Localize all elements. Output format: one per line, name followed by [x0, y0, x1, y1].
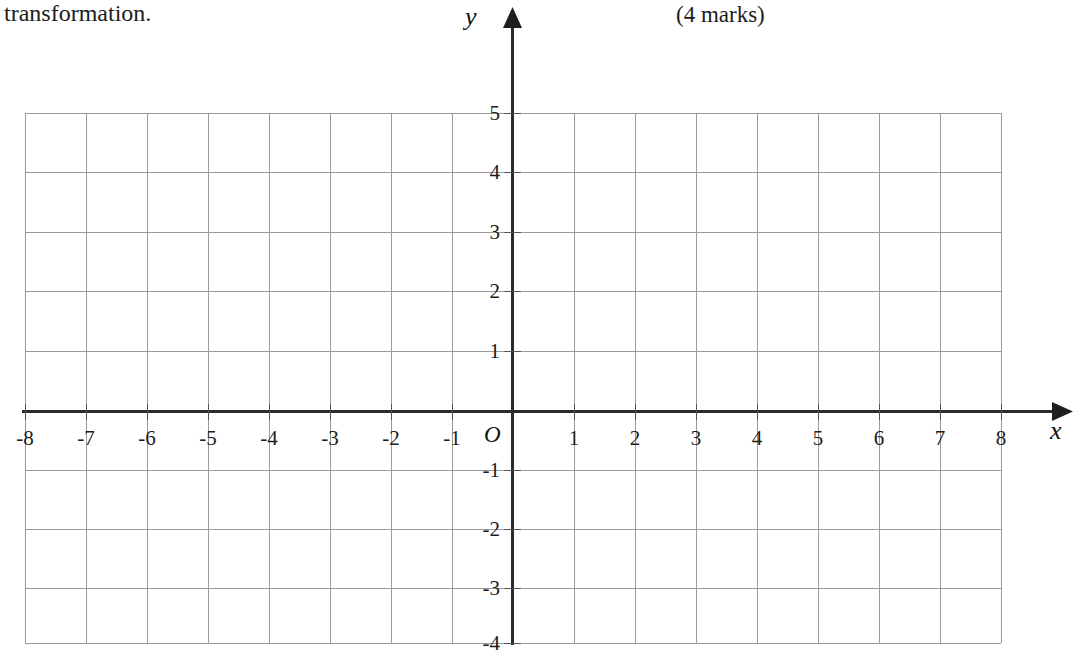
y-tick-label: -1: [460, 460, 500, 481]
x-axis: [22, 402, 1073, 421]
x-tick-label: -2: [371, 428, 411, 449]
y-tick-label: 2: [460, 281, 500, 302]
y-tick-label: -4: [460, 633, 500, 654]
exam-question-page: transformation. (4 marks): [0, 0, 1080, 658]
x-tick-label: 6: [859, 428, 899, 449]
y-axis: [503, 7, 522, 645]
x-tick-label: -8: [5, 428, 45, 449]
origin-label: O: [484, 423, 501, 446]
y-axis-label: y: [465, 4, 477, 30]
y-tick-label: 3: [460, 222, 500, 243]
coordinate-grid: y x O -8 -7 -6 -5 -4 -3 -2 -1 1 2 3 4 5 …: [0, 0, 1080, 658]
y-tick-label: -2: [460, 519, 500, 540]
y-tick-label: 5: [460, 103, 500, 124]
x-tick-label: -6: [127, 428, 167, 449]
x-axis-label: x: [1050, 418, 1062, 444]
x-tick-label: 3: [676, 428, 716, 449]
x-tick-label: -3: [310, 428, 350, 449]
x-tick-label: -7: [66, 428, 106, 449]
y-tick-label: -3: [460, 578, 500, 599]
x-tick-label: -4: [249, 428, 289, 449]
x-tick-label: -5: [188, 428, 228, 449]
coordinate-grid-svg: [0, 0, 1080, 658]
x-tick-label: 8: [981, 428, 1021, 449]
y-tick-label: 1: [460, 341, 500, 362]
x-tick-label: 5: [798, 428, 838, 449]
x-tick-label: 4: [737, 428, 777, 449]
x-tick-label: 2: [615, 428, 655, 449]
x-tick-label: 7: [920, 428, 960, 449]
x-tick-label: 1: [554, 428, 594, 449]
y-tick-label: 4: [460, 162, 500, 183]
x-tick-label: -1: [432, 428, 472, 449]
y-axis-arrowhead: [503, 7, 522, 28]
